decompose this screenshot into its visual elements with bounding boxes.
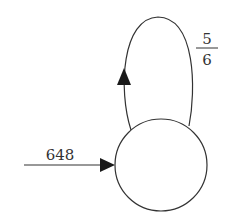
fraction-numerator: 5 xyxy=(202,30,212,48)
loop-fraction-label: 5 6 xyxy=(196,30,218,69)
diagram-canvas: 648 5 6 xyxy=(0,0,236,223)
fraction-denominator: 6 xyxy=(202,51,212,69)
node-circle xyxy=(115,119,207,211)
input-label: 648 xyxy=(46,146,75,164)
arrowhead-icon xyxy=(100,158,115,172)
self-loop-path xyxy=(124,17,192,130)
loop-arrowhead-icon xyxy=(117,68,131,85)
